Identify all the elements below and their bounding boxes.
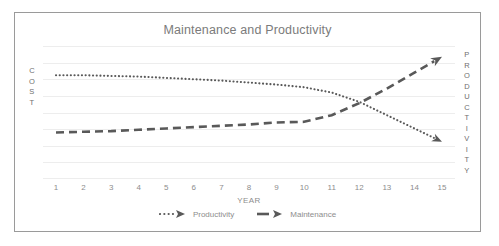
axis-title-letter: Y xyxy=(461,166,473,177)
axis-title-letter: S xyxy=(26,87,38,98)
axis-title-letter: C xyxy=(461,103,473,114)
legend-item-maintenance[interactable]: Maintenance xyxy=(256,209,336,219)
chart-title: Maintenance and Productivity xyxy=(15,23,480,37)
legend-label: Productivity xyxy=(193,210,234,219)
axis-title-letter: I xyxy=(461,145,473,156)
series-canvas xyxy=(43,46,455,179)
chart-legend: Productivity Maintenance xyxy=(15,209,480,219)
x-axis-title: YEAR xyxy=(43,196,455,205)
y-axis-left-title: COST xyxy=(26,66,38,108)
axis-title-letter: D xyxy=(461,82,473,93)
axis-title-letter: T xyxy=(461,113,473,124)
chart-container: Maintenance and Productivity 12345678910… xyxy=(14,12,481,232)
x-axis-tick: 8 xyxy=(237,183,261,192)
series-line-maintenance xyxy=(56,61,434,132)
x-axis-tick: 4 xyxy=(127,183,151,192)
productivity-arrowhead-icon xyxy=(431,134,442,142)
x-axis-tick: 13 xyxy=(375,183,399,192)
x-axis-tick: 15 xyxy=(430,183,454,192)
x-axis-tick: 9 xyxy=(265,183,289,192)
dashed-arrow-marker-icon xyxy=(256,209,286,219)
x-axis-tick: 6 xyxy=(182,183,206,192)
x-axis-tick: 10 xyxy=(292,183,316,192)
x-axis-tick: 2 xyxy=(72,183,96,192)
y-axis-right-title: PRODUCTIVITY xyxy=(461,50,473,176)
axis-title-letter: V xyxy=(461,134,473,145)
x-axis-tick: 3 xyxy=(99,183,123,192)
series-line-productivity xyxy=(56,75,434,138)
axis-title-letter: I xyxy=(461,124,473,135)
x-axis-tick: 7 xyxy=(209,183,233,192)
dotted-arrow-marker-icon xyxy=(159,209,189,219)
axis-title-letter: C xyxy=(26,66,38,77)
x-axis-tick: 5 xyxy=(154,183,178,192)
plot-area xyxy=(43,46,455,179)
x-axis-tick: 1 xyxy=(44,183,68,192)
axis-title-letter: O xyxy=(461,71,473,82)
axis-title-letter: T xyxy=(461,155,473,166)
x-axis-tick: 12 xyxy=(347,183,371,192)
axis-title-letter: P xyxy=(461,50,473,61)
axis-title-letter: T xyxy=(26,98,38,109)
axis-title-letter: U xyxy=(461,92,473,103)
legend-item-productivity[interactable]: Productivity xyxy=(159,209,234,219)
x-axis-tick: 14 xyxy=(402,183,426,192)
axis-title-letter: O xyxy=(26,77,38,88)
legend-label: Maintenance xyxy=(290,210,336,219)
x-axis-tick-labels: 123456789101112131415 xyxy=(43,183,455,195)
x-axis-tick: 11 xyxy=(320,183,344,192)
axis-title-letter: R xyxy=(461,61,473,72)
